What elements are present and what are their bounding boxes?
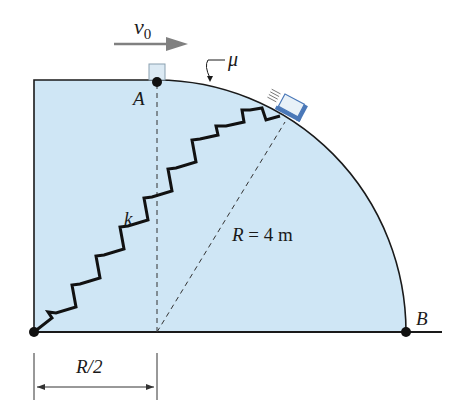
dimension-label: R/2 <box>76 356 102 378</box>
spring-constant-label: k <box>124 208 132 230</box>
friction-leader <box>206 60 225 78</box>
velocity-label: v0 <box>134 14 151 43</box>
point-b-label: B <box>416 308 428 330</box>
quarter-circle-body <box>34 80 406 332</box>
friction-label: μ <box>228 48 238 71</box>
point-b-dot <box>401 327 411 337</box>
point-a-label: A <box>133 88 145 110</box>
point-a-dot <box>152 77 162 87</box>
radius-label: R = 4 m <box>232 224 293 246</box>
point-origin-dot <box>29 327 39 337</box>
